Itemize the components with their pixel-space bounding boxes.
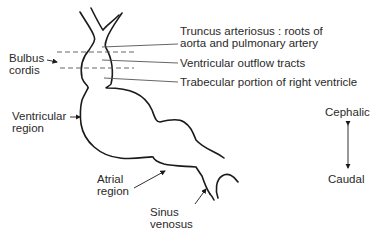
label-ventricular-outflow: Ventricular outflow tracts xyxy=(180,57,305,69)
label-atrial-region: Atrial region xyxy=(97,173,129,197)
label-line: venosus xyxy=(150,218,193,230)
label-line: Truncus arteriosus : roots of xyxy=(180,25,323,37)
label-line: cordis xyxy=(9,64,44,76)
label-cephalic: Cephalic xyxy=(325,106,370,118)
label-caudal: Caudal xyxy=(328,173,364,185)
label-line: region xyxy=(12,122,66,134)
label-truncus-arteriosus: Truncus arteriosus : roots of aorta and … xyxy=(180,25,323,49)
label-line: aorta and pulmonary artery xyxy=(180,37,323,49)
label-trabecular-portion: Trabecular portion of right ventricle xyxy=(180,76,357,88)
label-line: Sinus xyxy=(150,206,193,218)
label-line: Atrial xyxy=(97,173,129,185)
label-ventricular-region: Ventricular region xyxy=(12,110,66,134)
label-line: region xyxy=(97,185,129,197)
heart-tube-diagram: Bulbus cordis Ventricular region Atrial … xyxy=(0,0,378,237)
label-line: Ventricular xyxy=(12,110,66,122)
label-line: Bulbus xyxy=(9,52,44,64)
label-sinus-venosus: Sinus venosus xyxy=(150,206,193,230)
label-bulbus-cordis: Bulbus cordis xyxy=(9,52,44,76)
